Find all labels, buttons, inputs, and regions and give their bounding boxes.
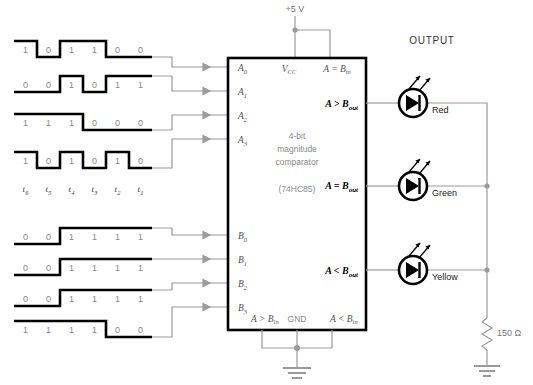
supply-label: +5 V <box>286 4 305 14</box>
waveform-a0-bit-2: 1 <box>69 45 74 55</box>
waveform-a3-bit-4: 1 <box>115 156 120 166</box>
waveform-b3-bit-3: 1 <box>92 325 97 335</box>
input-a0-wire <box>152 57 228 67</box>
waveform-a1-bit-0: 0 <box>23 80 28 90</box>
timing-label-6: t6 <box>23 184 30 196</box>
chip-desc-line3: comparator <box>276 157 319 167</box>
waveform-b1-bit-1: 0 <box>46 263 51 273</box>
waveform-b1-bit-3: 1 <box>92 263 97 273</box>
waveform-b1-bit-5: 1 <box>138 263 143 273</box>
input-b2-arrowhead <box>203 280 210 287</box>
waveform-b1-trace <box>14 259 152 275</box>
waveform-b0-bit-2: 1 <box>69 232 74 242</box>
input-b3-wire <box>152 307 228 337</box>
gnd-pin-label: GND <box>288 314 307 324</box>
waveform-b1-bit-0: 0 <box>23 263 28 273</box>
led-group: RedGreenYellow <box>399 76 458 284</box>
led-green: Green <box>399 159 457 200</box>
bus-junction-yellow <box>484 267 489 272</box>
waveform-a1-bit-4: 1 <box>115 80 120 90</box>
waveform-b3-bit-4: 0 <box>115 325 120 335</box>
waveform-b1-bit-2: 1 <box>69 263 74 273</box>
input-a1-wire <box>152 76 228 91</box>
supply-junction-dot <box>292 27 297 32</box>
a-input-waveforms: 101100001011111000101010 <box>14 41 152 168</box>
led-red: Red <box>399 76 449 117</box>
timing-label-3: t3 <box>92 184 99 196</box>
b-input-waveforms: 001111001111001111111100 <box>14 228 152 337</box>
waveform-a1-bit-3: 0 <box>92 80 97 90</box>
waveform-b3-bit-0: 1 <box>23 325 28 335</box>
waveform-a3-bit-0: 1 <box>23 156 28 166</box>
timing-label-5: t5 <box>46 184 53 196</box>
timing-label-4: t4 <box>69 184 76 196</box>
input-b3-arrowhead <box>203 304 210 311</box>
waveform-b3-trace <box>14 321 152 337</box>
waveform-a0-bit-0: 1 <box>23 45 28 55</box>
input-a1-arrowhead <box>203 88 210 95</box>
waveform-a2-bit-5: 0 <box>138 118 143 128</box>
waveform-a1-bit-5: 1 <box>138 80 143 90</box>
waveform-a2-bit-4: 0 <box>115 118 120 128</box>
supply-wire-abin <box>295 30 330 58</box>
input-b2-wire <box>152 283 228 290</box>
waveform-b2-bit-0: 0 <box>23 294 28 304</box>
wire-red-to-bus <box>428 103 487 186</box>
input-b1-arrowhead <box>203 256 210 263</box>
waveform-b3-bit-2: 1 <box>69 325 74 335</box>
timing-label-1: t1 <box>138 184 144 196</box>
waveform-b1-bit-4: 1 <box>115 263 120 273</box>
led-red-label: Red <box>432 105 449 115</box>
waveform-b0-bit-0: 0 <box>23 232 28 242</box>
input-a2-arrowhead <box>203 112 210 119</box>
waveform-a2-bit-3: 0 <box>92 118 97 128</box>
waveform-b0-bit-4: 1 <box>115 232 120 242</box>
waveform-a2-bit-1: 1 <box>46 118 51 128</box>
waveform-b0-trace <box>14 228 152 244</box>
circuit-diagram: +5 V OUTPUT 101100001011111000101010 t6t… <box>0 0 533 385</box>
waveform-a0-trace <box>14 41 152 57</box>
led-yellow: Yellow <box>399 243 458 284</box>
waveform-a3-trace <box>14 152 152 168</box>
waveform-b2-bit-4: 1 <box>115 294 120 304</box>
resistor-zigzag <box>482 318 492 350</box>
waveform-b2-trace <box>14 290 152 306</box>
waveform-a0-bit-4: 0 <box>115 45 120 55</box>
chip-desc-line1: 4-bit <box>289 131 306 141</box>
gnd-junction-dot <box>294 345 300 351</box>
input-b0-arrowhead <box>203 232 210 239</box>
waveform-b0-bit-3: 1 <box>92 232 97 242</box>
chip-desc-line2: magnitude <box>277 144 317 154</box>
waveform-a0-bit-1: 0 <box>46 45 51 55</box>
led-green-label: Green <box>432 188 457 198</box>
resistor-branch: 150 Ω <box>474 310 522 376</box>
waveform-b3-bit-1: 1 <box>46 325 51 335</box>
waveform-a3-bit-5: 0 <box>138 156 143 166</box>
bus-junction-green <box>484 183 489 188</box>
waveform-b3-bit-5: 0 <box>138 325 143 335</box>
timing-label-2: t2 <box>115 184 122 196</box>
waveform-b0-bit-5: 1 <box>138 232 143 242</box>
diagram-canvas: +5 V OUTPUT 101100001011111000101010 t6t… <box>0 0 533 385</box>
timing-axis-labels: t6t5t4t3t2t1 <box>23 184 144 196</box>
waveform-b0-bit-1: 0 <box>46 232 51 242</box>
led-yellow-label: Yellow <box>432 272 458 282</box>
waveform-a3-bit-3: 0 <box>92 156 97 166</box>
input-a2-wire <box>152 115 228 130</box>
waveform-a0-bit-3: 1 <box>92 45 97 55</box>
waveform-a1-trace <box>14 76 152 92</box>
waveform-a0-bit-5: 0 <box>138 45 143 55</box>
resistor-value-label: 150 Ω <box>497 328 522 338</box>
waveform-a2-bit-2: 1 <box>69 118 74 128</box>
supply-node: +5 V <box>286 4 330 58</box>
waveform-b2-bit-3: 1 <box>92 294 97 304</box>
chip-ground <box>262 330 332 378</box>
waveform-b2-bit-5: 1 <box>138 294 143 304</box>
waveform-a2-trace <box>14 114 152 130</box>
waveform-a3-bit-1: 0 <box>46 156 51 166</box>
waveform-b2-bit-1: 0 <box>46 294 51 304</box>
input-a3-wire <box>152 139 228 168</box>
input-b0-wire <box>152 228 228 235</box>
output-header: OUTPUT <box>409 35 454 46</box>
waveform-a3-bit-2: 1 <box>69 156 74 166</box>
